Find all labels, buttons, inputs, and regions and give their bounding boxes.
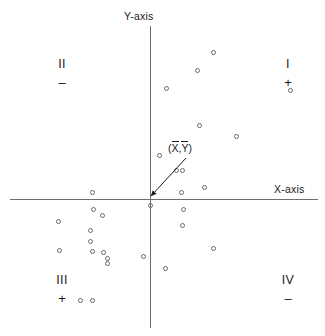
scatter-plot-figure: X-axis Y-axis I+II–III+IV– (X,Y) bbox=[0, 0, 325, 336]
data-point bbox=[164, 86, 169, 91]
data-point bbox=[179, 190, 184, 195]
quadrant-three-label: III+ bbox=[42, 274, 82, 306]
data-point bbox=[180, 168, 185, 173]
quadrant-four-sign: – bbox=[268, 291, 308, 306]
data-point bbox=[197, 123, 202, 128]
centroid-x-bar: X bbox=[172, 142, 179, 154]
data-point bbox=[105, 256, 110, 261]
data-point bbox=[148, 203, 153, 208]
data-point bbox=[88, 239, 93, 244]
quadrant-two-sign: – bbox=[42, 75, 82, 90]
centroid-label: (X,Y) bbox=[168, 142, 192, 154]
data-point bbox=[100, 213, 105, 218]
data-point bbox=[211, 246, 216, 251]
data-point bbox=[181, 207, 186, 212]
quadrant-two-roman: II bbox=[42, 58, 82, 71]
quadrant-one-label: I+ bbox=[268, 58, 308, 90]
quadrant-four-roman: IV bbox=[268, 274, 308, 287]
y-axis-label: Y-axis bbox=[124, 10, 153, 22]
data-point bbox=[105, 261, 110, 266]
y-axis-line bbox=[150, 26, 151, 328]
data-point bbox=[163, 266, 168, 271]
quadrant-one-roman: I bbox=[268, 58, 308, 71]
data-point bbox=[90, 298, 95, 303]
data-point bbox=[141, 254, 146, 259]
centroid-paren-close: ) bbox=[188, 142, 192, 154]
x-axis-line bbox=[10, 199, 318, 200]
x-axis-label: X-axis bbox=[274, 183, 304, 195]
data-point bbox=[234, 134, 239, 139]
data-point bbox=[91, 207, 96, 212]
data-point bbox=[90, 190, 95, 195]
quadrant-three-sign: + bbox=[42, 291, 82, 306]
data-point bbox=[56, 219, 61, 224]
data-point bbox=[174, 168, 179, 173]
data-point bbox=[288, 88, 293, 93]
data-point bbox=[211, 50, 216, 55]
data-point bbox=[180, 223, 185, 228]
data-point bbox=[57, 248, 62, 253]
data-point bbox=[195, 68, 200, 73]
data-point bbox=[78, 298, 83, 303]
data-point bbox=[157, 153, 162, 158]
data-point bbox=[90, 249, 95, 254]
data-point bbox=[101, 250, 106, 255]
data-point bbox=[88, 228, 93, 233]
data-point bbox=[202, 185, 207, 190]
centroid-y-bar: Y bbox=[181, 142, 188, 154]
quadrant-two-label: II– bbox=[42, 58, 82, 90]
quadrant-three-roman: III bbox=[42, 274, 82, 287]
quadrant-four-label: IV– bbox=[268, 274, 308, 306]
